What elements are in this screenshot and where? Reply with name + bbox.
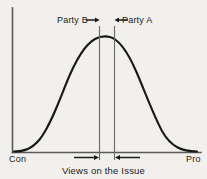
distribution-chart-figure: Party B Party A Con Pro Views on the Iss…: [0, 0, 207, 179]
plot-canvas: [0, 0, 207, 179]
party-b-label: Party B: [57, 16, 88, 25]
x-axis-left-tick-label: Con: [9, 155, 26, 164]
x-axis-right-tick-label: Pro: [186, 155, 201, 164]
x-axis-title: Views on the Issue: [0, 166, 207, 176]
party-a-label: Party A: [122, 16, 152, 25]
